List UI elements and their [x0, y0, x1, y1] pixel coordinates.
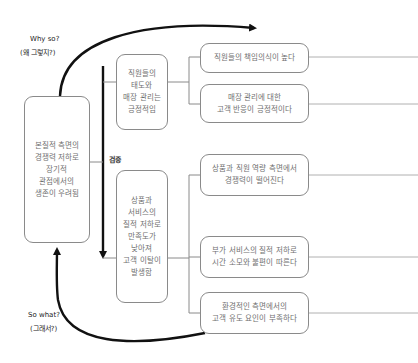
root-conclusion-box: 본질적 측면의 경쟁력 저하로 장기적 관점에서의 생존이 우려됨 — [24, 96, 90, 243]
verify-label: 검증 — [109, 154, 121, 164]
leaf-box-2-1: 상품과 직원 역량 측면에서 경쟁력이 떨어진다 — [200, 154, 309, 196]
branch-box-1: 직원들의 태도와 매장 관리는 긍정적임 — [116, 54, 168, 130]
why-so-label: Why so? — [30, 34, 59, 45]
why-so-ko-label: (왜 그렇지?) — [20, 48, 55, 59]
so-what-ko-label: (그래서?) — [30, 324, 57, 335]
leaf-box-1-2: 매장 관리에 대한 고객 반응이 긍정적이다 — [200, 84, 309, 123]
branch-box-2: 상품과 서비스의 질적 저하로 만족도가 낮아져 고객 이탈이 발생함 — [116, 170, 168, 303]
so-what-label: So what? — [28, 310, 60, 321]
leaf-box-2-3: 환경적인 측면에서의 고객 유도 요인이 부족하다 — [200, 292, 309, 334]
leaf-box-2-2: 부가 서비스의 질적 저하로 시간 소모와 불편이 따른다 — [200, 236, 309, 278]
logic-tree-diagram: Why so? (왜 그렇지?) So what? (그래서?) 검증 본질적 … — [0, 0, 418, 363]
leaf-box-1-1: 직원들의 책임의식이 높다 — [200, 43, 309, 73]
